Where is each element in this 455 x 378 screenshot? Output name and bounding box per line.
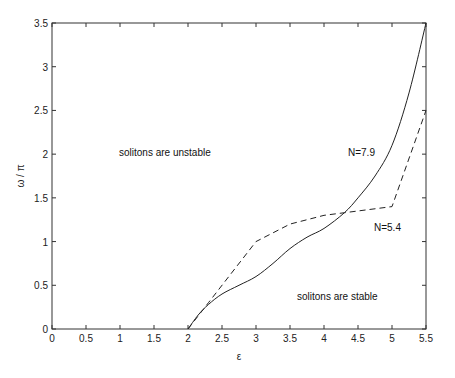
legend-label-n54: N=5.4 [374, 222, 401, 233]
y-tick-label: 0 [42, 324, 48, 335]
y-tick-label: 2.5 [34, 105, 48, 116]
x-tick-label: 5.5 [419, 333, 433, 344]
x-tick-label: 1.5 [147, 333, 161, 344]
y-axis-label: ω / π [15, 164, 26, 187]
y-tick-label: 1.5 [34, 193, 48, 204]
x-tick-label: 0.5 [79, 333, 93, 344]
x-tick-label: 2.5 [215, 333, 229, 344]
chart: 00.511.522.533.544.555.5 00.511.522.533.… [0, 0, 455, 378]
series-lines [188, 23, 426, 329]
y-axis-ticks: 00.511.522.533.5 [34, 18, 426, 335]
x-tick-label: 5 [389, 333, 395, 344]
y-tick-label: 1 [42, 237, 48, 248]
x-tick-label: 3 [253, 333, 259, 344]
y-tick-label: 2 [42, 149, 48, 160]
axes-box [52, 23, 426, 329]
x-tick-label: 0 [49, 333, 55, 344]
y-tick-label: 0.5 [34, 280, 48, 291]
annotation-unstable: solitons are unstable [119, 147, 211, 158]
x-tick-label: 4 [321, 333, 327, 344]
series-line-n79 [188, 23, 426, 329]
x-tick-label: 1 [117, 333, 123, 344]
legend-label-n79: N=7.9 [348, 147, 375, 158]
x-tick-label: 2 [185, 333, 191, 344]
x-axis-label: ε [237, 351, 242, 362]
annotation-stable: solitons are stable [297, 291, 378, 302]
x-tick-label: 3.5 [283, 333, 297, 344]
y-tick-label: 3.5 [34, 18, 48, 29]
y-tick-label: 3 [42, 62, 48, 73]
x-tick-label: 4.5 [351, 333, 365, 344]
